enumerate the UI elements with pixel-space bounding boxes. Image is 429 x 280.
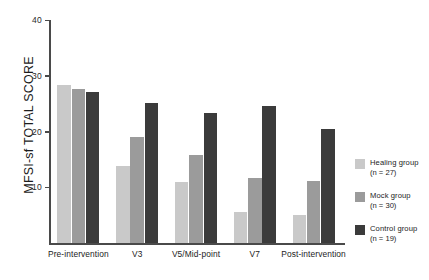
y-axis-tick-label: 20 xyxy=(16,127,42,137)
bar[interactable] xyxy=(189,155,203,243)
legend-swatch-icon xyxy=(355,192,365,202)
bar[interactable] xyxy=(293,215,307,243)
bar[interactable] xyxy=(57,85,71,243)
y-axis-title: MFSI-sf TOTAL SCORE xyxy=(22,20,36,230)
bar[interactable] xyxy=(175,182,189,243)
legend-swatch-icon xyxy=(355,159,365,169)
bar[interactable] xyxy=(145,103,159,243)
y-axis-tick-label: 10 xyxy=(16,182,42,192)
bar[interactable] xyxy=(116,166,130,243)
y-axis-tick-label: 40 xyxy=(16,15,42,25)
bar[interactable] xyxy=(307,181,321,243)
bar[interactable] xyxy=(130,137,144,243)
bar[interactable] xyxy=(204,113,218,243)
bar[interactable] xyxy=(234,212,248,243)
bar-group xyxy=(116,20,158,243)
bar[interactable] xyxy=(248,178,262,243)
y-axis-tick-label: 30 xyxy=(16,71,42,81)
legend-item[interactable]: Healing group(n = 27) xyxy=(355,158,429,180)
bar-group xyxy=(234,20,276,243)
legend-item-count: (n = 30) xyxy=(370,201,429,211)
bar-chart: MFSI-sf TOTAL SCORE 10203040 Pre-interve… xyxy=(0,0,429,280)
legend-item[interactable]: Mock group(n = 30) xyxy=(355,191,429,213)
legend-item-label: Mock group xyxy=(370,191,429,201)
legend-item-count: (n = 27) xyxy=(370,168,429,178)
bar[interactable] xyxy=(321,129,335,243)
plot-area xyxy=(51,20,345,243)
legend-swatch-icon xyxy=(355,225,365,235)
bar-group xyxy=(293,20,335,243)
bar[interactable] xyxy=(262,106,276,243)
chart-legend: Healing group(n = 27)Mock group(n = 30)C… xyxy=(355,158,429,257)
bar-group xyxy=(57,20,99,243)
x-axis-line xyxy=(49,243,345,245)
legend-item-label: Control group xyxy=(370,224,429,234)
bar[interactable] xyxy=(72,89,86,243)
bar[interactable] xyxy=(86,92,100,243)
bar-group xyxy=(175,20,217,243)
legend-item-count: (n = 19) xyxy=(370,234,429,244)
legend-item[interactable]: Control group(n = 19) xyxy=(355,224,429,246)
legend-item-label: Healing group xyxy=(370,158,429,168)
x-axis-tick-label: Post-intervention xyxy=(269,249,359,259)
